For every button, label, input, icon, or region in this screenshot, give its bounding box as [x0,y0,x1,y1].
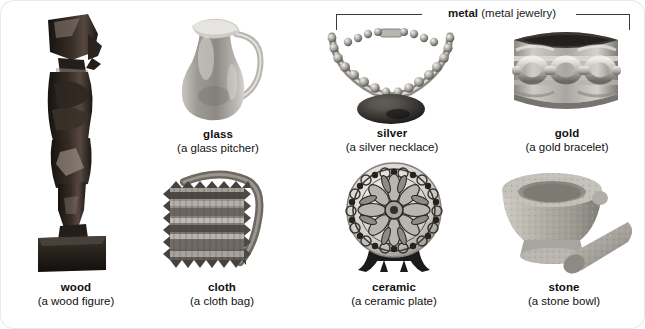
caption-ceramic: ceramic (a ceramic plate) [310,280,478,308]
wood-figure-photo [2,12,150,278]
item-cloth[interactable]: cloth (a cloth bag) [148,166,296,326]
caption-gold: gold (a gold bracelet) [492,126,642,154]
item-gold[interactable]: gold (a gold bracelet) [492,16,642,160]
gloss-ceramic: (a ceramic plate) [310,294,478,308]
caption-wood: wood (a wood figure) [2,280,150,308]
item-ceramic[interactable]: ceramic (a ceramic plate) [310,160,478,326]
term-cloth: cloth [148,280,296,294]
gloss-gold: (a gold bracelet) [492,140,642,154]
item-glass[interactable]: glass (a glass pitcher) [148,12,288,160]
bracket-right-line [576,14,630,15]
stone-bowl-photo [486,166,642,278]
caption-stone: stone (a stone bowl) [486,280,642,308]
gloss-stone: (a stone bowl) [486,294,642,308]
gloss-silver: (a silver necklace) [318,140,466,154]
term-wood: wood [2,280,150,294]
illustrated-vocabulary-panel: metal (metal jewelry) [0,0,645,329]
item-stone[interactable]: stone (a stone bowl) [486,166,642,326]
item-silver[interactable]: silver (a silver necklace) [318,26,466,160]
term-ceramic: ceramic [310,280,478,294]
silver-necklace-photo [318,26,466,124]
gloss-glass: (a glass pitcher) [148,141,288,155]
gloss-cloth: (a cloth bag) [148,294,296,308]
metal-group-term: metal [448,7,478,19]
item-wood[interactable]: wood (a wood figure) [2,12,150,327]
caption-silver: silver (a silver necklace) [318,126,466,154]
caption-glass: glass (a glass pitcher) [148,127,288,155]
gold-bracelet-photo [492,16,642,122]
term-gold: gold [492,126,642,140]
term-silver: silver [318,126,466,140]
gloss-wood: (a wood figure) [2,294,150,308]
cloth-bag-photo [148,166,296,278]
bracket-left-line [336,14,422,15]
ceramic-plate-photo [310,160,478,278]
term-stone: stone [486,280,642,294]
term-glass: glass [148,127,288,141]
glass-pitcher-photo [148,12,288,124]
caption-cloth: cloth (a cloth bag) [148,280,296,308]
